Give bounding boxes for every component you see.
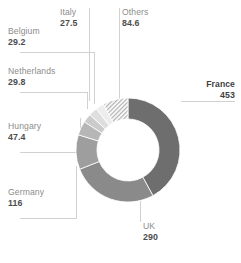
slice-label-uk-value: 290 (143, 233, 158, 243)
slice-label-others-name: Others (122, 8, 148, 18)
slice-label-uk-name: UK (143, 222, 158, 232)
slice-label-germany-value: 116 (8, 199, 44, 209)
slice-label-france-name: France (206, 80, 235, 90)
slice-label-others: Others 84.6 (122, 8, 148, 28)
donut-slice-uk[interactable] (80, 161, 153, 202)
donut-chart: Italy 27.5 Others 84.6 Belgium 29.2 Neth… (0, 0, 241, 263)
slice-label-italy-name: Italy (60, 8, 78, 18)
slice-label-germany-name: Germany (8, 188, 44, 198)
slice-label-hungary-name: Hungary (8, 122, 41, 132)
donut-slices (76, 98, 180, 202)
slice-label-uk: UK 290 (143, 222, 158, 242)
slice-label-italy: Italy 27.5 (60, 8, 78, 28)
slice-label-netherlands-name: Netherlands (8, 67, 55, 77)
slice-label-belgium-name: Belgium (8, 27, 40, 37)
slice-label-belgium-value: 29.2 (8, 38, 40, 48)
slice-label-france-value: 453 (206, 91, 235, 101)
slice-label-italy-value: 27.5 (60, 19, 78, 29)
slice-label-others-value: 84.6 (122, 19, 148, 29)
slice-label-netherlands: Netherlands 29.8 (8, 67, 55, 87)
slice-label-hungary: Hungary 47.4 (8, 122, 41, 142)
slice-label-france: France 453 (206, 80, 235, 100)
slice-label-belgium: Belgium 29.2 (8, 27, 40, 47)
slice-label-germany: Germany 116 (8, 188, 44, 208)
slice-label-hungary-value: 47.4 (8, 133, 41, 143)
leader-line-netherlands (20, 92, 88, 109)
slice-label-netherlands-value: 29.8 (8, 78, 55, 88)
